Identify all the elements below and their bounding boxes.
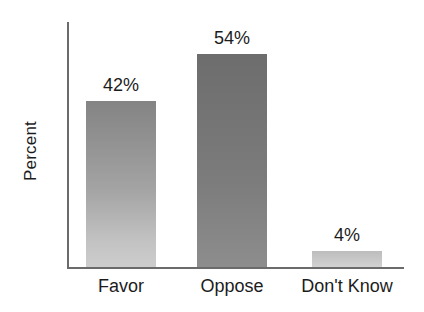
plot-area: 42% 54% 4% [69,22,404,267]
bar-chart: Percent 42% 54% 4% Favor Oppose Don't Kn… [0,0,424,312]
bar-oppose [197,54,267,267]
category-label-favor: Favor [61,276,181,297]
category-label-dont-know: Don't Know [277,276,417,297]
bar-favor [86,101,156,267]
category-axis-labels: Favor Oppose Don't Know [69,276,404,304]
bar-value-label-favor: 42% [86,75,156,96]
bar-value-label-dont-know: 4% [312,225,382,246]
category-label-oppose: Oppose [172,276,292,297]
y-axis-title: Percent [21,101,41,201]
bar-dont-know [312,251,382,267]
bar-value-label-oppose: 54% [197,28,267,49]
x-axis-line [67,267,404,269]
